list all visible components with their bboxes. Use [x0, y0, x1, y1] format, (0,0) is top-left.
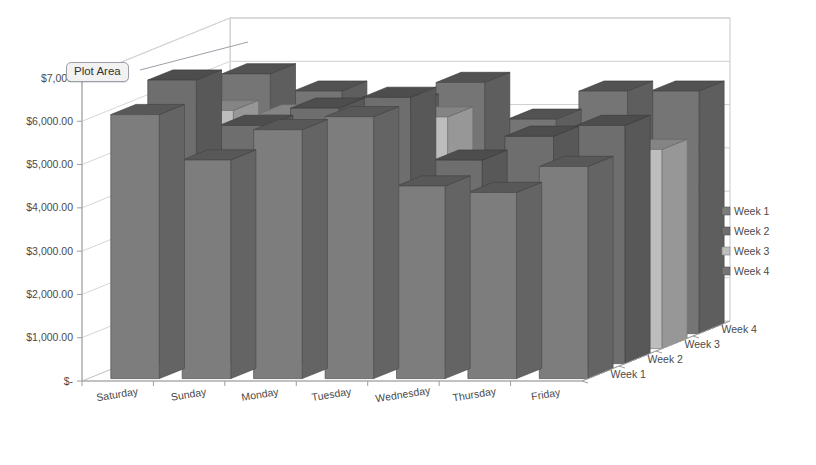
- x-axis-tick-label: Sunday: [170, 385, 208, 403]
- legend-label: Week 1: [734, 205, 770, 217]
- legend-label: Week 2: [734, 225, 770, 237]
- bar: [111, 104, 185, 378]
- legend-label: Week 4: [734, 265, 770, 277]
- y-axis: $-$1,000.00$2,000.00$3,000.00$4,000.00$5…: [26, 72, 82, 387]
- depth-axis-tick-label: Week 2: [648, 353, 684, 365]
- x-axis-tick-label: Monday: [241, 385, 281, 403]
- bar: [539, 156, 613, 378]
- y-axis-tick-label: $2,000.00: [26, 288, 73, 300]
- x-axis-tick-label: Wednesday: [375, 384, 432, 405]
- bar: [397, 176, 471, 379]
- plot-area-tooltip: Plot Area: [66, 62, 129, 82]
- y-axis-tick-label: $4,000.00: [26, 201, 73, 213]
- tooltip-leader-line: [138, 40, 258, 84]
- depth-axis-tick-label: Week 1: [611, 368, 647, 380]
- y-axis-tick-label: $-: [64, 375, 74, 387]
- legend-label: Week 3: [734, 245, 770, 257]
- x-axis-tick-label: Saturday: [95, 385, 139, 404]
- depth-axis-tick-label: Week 4: [722, 323, 758, 335]
- legend-swatch: [722, 247, 730, 255]
- legend-swatch: [722, 207, 730, 215]
- legend-swatch: [722, 267, 730, 275]
- bars-group: [111, 64, 724, 379]
- bar: [325, 107, 399, 379]
- chart-3d-column: $-$1,000.00$2,000.00$3,000.00$4,000.00$5…: [0, 0, 816, 465]
- bar: [468, 182, 542, 378]
- y-axis-tick-label: $6,000.00: [26, 115, 73, 127]
- depth-axis-tick-label: Week 3: [685, 338, 721, 350]
- legend-swatch: [722, 227, 730, 235]
- y-axis-tick-label: $1,000.00: [26, 331, 73, 343]
- y-axis-tick-label: $3,000.00: [26, 245, 73, 257]
- bar: [254, 120, 328, 379]
- x-axis-tick-label: Thursday: [452, 385, 498, 404]
- bar: [182, 150, 256, 379]
- x-axis-tick-label: Friday: [530, 386, 561, 403]
- x-axis-tick-label: Tuesday: [311, 385, 353, 403]
- y-axis-tick-label: $5,000.00: [26, 158, 73, 170]
- x-axis: SaturdaySundayMondayTuesdayWednesdayThur…: [82, 381, 582, 404]
